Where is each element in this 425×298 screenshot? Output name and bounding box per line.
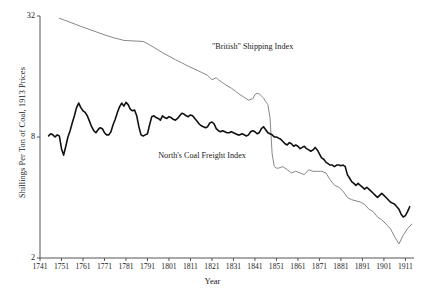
data-series-layer — [49, 18, 412, 244]
x-tick-label: 1911 — [389, 262, 421, 271]
x-axis-title: Year — [0, 276, 425, 286]
series-line — [59, 18, 412, 244]
y-tick-label: 32 — [2, 11, 35, 20]
axis-lines — [40, 16, 414, 258]
y-tick-label: 8 — [2, 132, 35, 141]
series-label-north-coal-freight-index: North's Coal Freight Index — [158, 151, 246, 160]
series-label-british-shipping-index: "British" Shipping Index — [212, 42, 293, 51]
chart-figure: Shillings Per Ton of Coal, 1913 Prices Y… — [0, 0, 425, 298]
y-tick-label: 2 — [2, 253, 35, 262]
